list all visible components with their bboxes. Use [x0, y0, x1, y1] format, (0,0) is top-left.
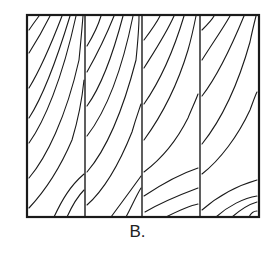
grain-line [126, 188, 141, 217]
grain-line [144, 16, 160, 40]
grain-line [144, 16, 184, 104]
board-frame [27, 15, 259, 217]
grain-line [29, 16, 50, 53]
grain-line [144, 16, 174, 68]
grain-line [202, 16, 256, 144]
board-dividers [85, 15, 200, 217]
grain-line [29, 16, 39, 30]
grain-line [144, 16, 196, 140]
grain-line [29, 16, 62, 88]
grain-line [232, 202, 257, 217]
grain-lines [29, 16, 257, 217]
grain-line [144, 168, 198, 196]
grain-line [87, 16, 114, 72]
grain-line [67, 190, 84, 217]
grain-line [144, 94, 198, 172]
wood-grain-diagram [0, 0, 275, 255]
grain-line [87, 104, 141, 205]
grain-line [202, 16, 214, 30]
grain-line [202, 16, 230, 60]
figure-caption: B. [0, 222, 275, 242]
grain-line [145, 188, 198, 212]
grain-line [87, 16, 101, 46]
grain-line [29, 80, 84, 208]
grain-line [29, 16, 76, 143]
grain-line [166, 204, 198, 217]
